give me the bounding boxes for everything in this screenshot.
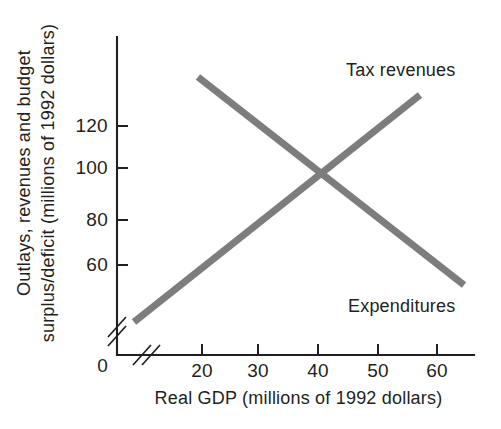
x-tick-label-40: 40 <box>307 360 329 382</box>
x-tick-label-60: 60 <box>426 360 448 382</box>
y-axis-title-line1: Outlays, revenues and budget <box>14 8 36 338</box>
series-label-expenditures: Expenditures <box>348 296 455 317</box>
x-tick-label-30: 30 <box>247 360 269 382</box>
series-line-expenditures <box>198 77 464 285</box>
series-label-tax-revenues: Tax revenues <box>346 60 455 81</box>
x-axis-title: Real GDP (millions of 1992 dollars) <box>155 388 443 409</box>
x-tick-label-20: 20 <box>191 360 213 382</box>
chart-figure: 120 100 80 60 0 20 30 40 50 60 Real GDP … <box>0 0 501 429</box>
x-tick-label-50: 50 <box>367 360 389 382</box>
series-line-tax-revenues <box>134 95 420 322</box>
y-axis-origin-label: 0 <box>40 355 108 377</box>
y-axis-title-line2: surplus/deficit (millions of 1992 dollar… <box>38 18 60 348</box>
